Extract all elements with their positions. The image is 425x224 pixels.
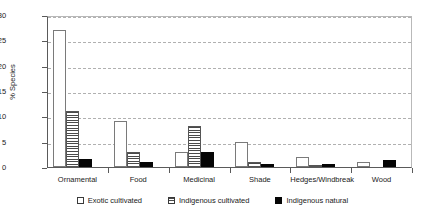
gridline xyxy=(48,17,411,18)
bar-medicinal-exotic-cultivated xyxy=(175,152,188,167)
x-tick-mark xyxy=(230,168,231,173)
y-axis-title: % Species xyxy=(9,42,17,122)
bar-hedges-windbreak-exotic-cultivated xyxy=(296,157,309,167)
legend-swatch-icon-indigenous-cultivated xyxy=(168,197,175,204)
gridline xyxy=(48,93,411,94)
x-tick-mark xyxy=(290,168,291,173)
y-tick-label-30: 30 xyxy=(0,12,6,20)
x-tick-mark xyxy=(169,168,170,173)
x-tick-mark xyxy=(108,168,109,173)
legend-swatch-icon-indigenous-natural xyxy=(275,197,282,204)
plot-area xyxy=(47,16,412,168)
legend-entry-indigenous-natural: Indigenous natural xyxy=(275,196,348,205)
y-tick-label-25: 25 xyxy=(0,37,6,45)
bar-hedges-windbreak-indigenous-natural xyxy=(322,164,335,167)
x-tick-label-hedges-windbreak: Hedges/Windbreak xyxy=(290,175,351,184)
gridline xyxy=(48,42,411,43)
bar-medicinal-indigenous-natural xyxy=(201,152,214,167)
y-tick-label-20: 20 xyxy=(0,63,6,71)
legend-label: Indigenous cultivated xyxy=(179,196,249,205)
x-tick-label-wood: Wood xyxy=(351,175,412,184)
bar-medicinal-indigenous-cultivated xyxy=(188,126,201,167)
y-tick-label-15: 15 xyxy=(0,88,6,96)
bar-ornamental-indigenous-cultivated xyxy=(66,111,79,167)
x-tick-mark xyxy=(351,168,352,173)
bar-food-indigenous-cultivated xyxy=(127,152,140,167)
legend-entry-exotic-cultivated: Exotic cultivated xyxy=(77,196,142,205)
bar-shade-exotic-cultivated xyxy=(235,142,248,167)
legend: Exotic cultivatedIndigenous cultivatedIn… xyxy=(0,196,425,205)
legend-label: Exotic cultivated xyxy=(88,196,142,205)
x-tick-label-medicinal: Medicinal xyxy=(169,175,230,184)
y-tick-label-5: 5 xyxy=(0,139,6,147)
bar-chart: % Species 051015202530 OrnamentalFoodMed… xyxy=(0,0,425,224)
legend-swatch-icon-exotic-cultivated xyxy=(77,197,84,204)
gridline xyxy=(48,118,411,119)
x-tick-label-ornamental: Ornamental xyxy=(47,175,108,184)
bar-ornamental-indigenous-natural xyxy=(79,159,92,167)
bar-hedges-windbreak-indigenous-cultivated xyxy=(309,165,322,167)
bar-wood-exotic-cultivated xyxy=(357,162,370,167)
legend-label: Indigenous natural xyxy=(286,196,348,205)
x-tick-label-food: Food xyxy=(108,175,169,184)
gridline xyxy=(48,144,411,145)
y-tick-label-0: 0 xyxy=(0,164,6,172)
y-tick-mark xyxy=(42,168,47,169)
legend-entry-indigenous-cultivated: Indigenous cultivated xyxy=(168,196,249,205)
y-tick-label-10: 10 xyxy=(0,113,6,121)
bar-food-indigenous-natural xyxy=(140,162,153,167)
bar-wood-indigenous-natural xyxy=(383,160,396,167)
bar-food-exotic-cultivated xyxy=(114,121,127,167)
bar-ornamental-exotic-cultivated xyxy=(53,30,66,167)
x-tick-label-shade: Shade xyxy=(230,175,291,184)
bar-shade-indigenous-cultivated xyxy=(248,162,261,167)
x-tick-mark xyxy=(412,168,413,173)
bar-shade-indigenous-natural xyxy=(261,164,274,167)
gridline xyxy=(48,68,411,69)
